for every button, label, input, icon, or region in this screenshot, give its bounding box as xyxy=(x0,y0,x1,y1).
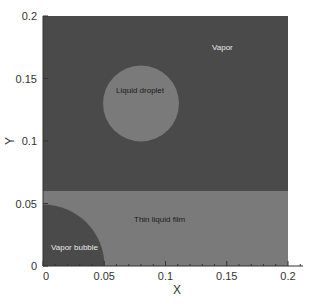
y-tick-label: 0.15 xyxy=(16,73,37,85)
x-tick-label: 0 xyxy=(43,270,49,282)
y-tick-label: 0.1 xyxy=(22,135,37,147)
vapor-label: Vapor xyxy=(212,43,233,52)
y-tick-label: 0.05 xyxy=(16,198,37,210)
x-tick-labels: 0 0.05 0.1 0.15 0.2 xyxy=(43,270,296,282)
y-tick-labels: 0 0.05 0.1 0.15 0.2 xyxy=(16,10,37,272)
vapor-bubble-label: Vapor bubble xyxy=(51,243,99,252)
x-tick-label: 0.15 xyxy=(216,270,237,282)
liquid-droplet-region xyxy=(103,66,179,142)
thin-liquid-film-label: Thin liquid film xyxy=(134,215,185,224)
x-tick-label: 0.2 xyxy=(280,270,295,282)
phase-field-plot: 0 0.05 0.1 0.15 0.2 0 0.05 0.1 0.15 0.2 … xyxy=(0,0,321,307)
liquid-droplet-label: Liquid droplet xyxy=(116,86,165,95)
y-tick-label: 0 xyxy=(31,260,37,272)
y-tick-label: 0.2 xyxy=(22,10,37,22)
x-tick-label: 0.05 xyxy=(94,270,115,282)
x-axis-title: X xyxy=(173,283,181,297)
x-tick-label: 0.1 xyxy=(158,270,173,282)
plot-area xyxy=(43,16,288,266)
y-axis-title: Y xyxy=(3,137,17,145)
